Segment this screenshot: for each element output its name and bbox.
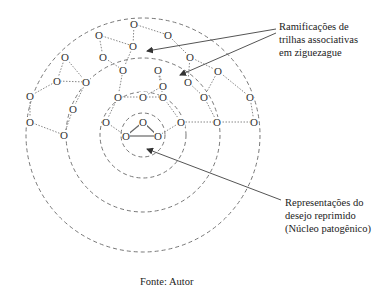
- association-nodes: OOOOOOOOOOOOOOOOOOOOOOOOOOOOOO: [26, 18, 258, 142]
- node-glyph: O: [184, 76, 192, 88]
- node-glyph: O: [164, 29, 172, 41]
- node-glyph: O: [186, 51, 194, 63]
- node-glyph: O: [154, 64, 162, 76]
- node-glyph: O: [26, 90, 34, 102]
- node-glyph: O: [69, 103, 77, 115]
- node-glyph: O: [246, 91, 254, 103]
- node-glyph: O: [200, 91, 208, 103]
- label-line: trilhas associativas: [279, 33, 358, 46]
- node-glyph: O: [60, 129, 68, 141]
- node-glyph: O: [159, 91, 167, 103]
- ring: [100, 92, 186, 178]
- label-line: desejo reprimido: [285, 209, 371, 222]
- label-line: (Núcleo patogênico): [285, 222, 371, 235]
- node-glyph: O: [61, 51, 69, 63]
- node-glyph: O: [99, 51, 107, 63]
- node-glyph: O: [177, 116, 185, 128]
- label-line: em ziguezague: [279, 46, 358, 59]
- label-pointers: [147, 29, 281, 200]
- node-glyph: O: [154, 130, 162, 142]
- node-glyph: O: [53, 75, 61, 87]
- node-glyph: O: [130, 18, 138, 30]
- pointer-arrow-2: [180, 33, 276, 75]
- node-glyph: O: [26, 116, 34, 128]
- node-glyph: O: [214, 65, 222, 77]
- pointer-arrow-core: [147, 149, 281, 200]
- node-glyph: O: [82, 76, 90, 88]
- edge: [99, 35, 133, 46]
- node-glyph: O: [139, 116, 147, 128]
- node-glyph: O: [95, 29, 103, 41]
- edge: [134, 24, 168, 35]
- node-glyph: O: [250, 116, 258, 128]
- label-repressed-desire: Representações do desejo reprimido (Núcl…: [285, 196, 371, 235]
- node-glyph: O: [129, 40, 137, 52]
- node-glyph: O: [139, 91, 147, 103]
- node-glyph: O: [114, 91, 122, 103]
- node-glyph: O: [213, 116, 221, 128]
- edge: [30, 122, 64, 135]
- node-glyph: O: [119, 64, 127, 76]
- label-line: Representações do: [285, 196, 371, 209]
- label-line: Ramificações de: [279, 20, 358, 33]
- node-glyph: O: [122, 130, 130, 142]
- label-associative-branches: Ramificações de trilhas associativas em …: [279, 20, 358, 59]
- figure-caption: Fonte: Autor: [140, 276, 193, 287]
- node-glyph: O: [102, 116, 110, 128]
